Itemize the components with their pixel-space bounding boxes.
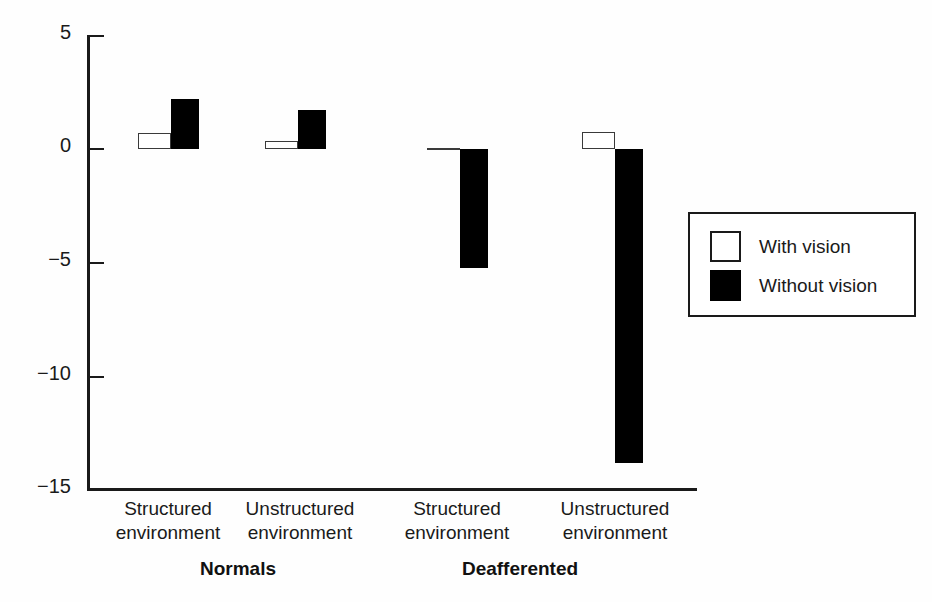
- x-axis-line: [87, 488, 697, 491]
- group-label-normals: Normals: [158, 558, 318, 580]
- x-category-label-line1: Structured: [387, 497, 527, 521]
- y-tick-minus10: −10: [87, 376, 104, 378]
- bar-with-vision-deafferented-structured: [427, 148, 460, 150]
- y-tick-0: 0: [87, 148, 104, 150]
- y-tick-label: 5: [60, 22, 71, 42]
- plot-area: 5 0 −5 −10 −15: [87, 35, 697, 490]
- bar-with-vision-normals-structured: [138, 133, 171, 149]
- x-category-label-0: Structured environment: [98, 497, 238, 545]
- y-tick-minus15: −15: [87, 489, 104, 491]
- group-label-deafferented: Deafferented: [425, 558, 615, 580]
- bar-with-vision-normals-unstructured: [265, 141, 298, 149]
- x-category-label-2: Structured environment: [387, 497, 527, 545]
- x-category-label-3: Unstructured environment: [542, 497, 688, 545]
- legend-swatch-dark: [710, 270, 741, 301]
- legend-label-without-vision: Without vision: [759, 275, 877, 297]
- x-category-label-line2: environment: [387, 521, 527, 545]
- x-category-label-line2: environment: [227, 521, 373, 545]
- bar-without-vision-normals-structured: [171, 99, 199, 149]
- y-tick-mark: [90, 376, 104, 378]
- x-category-label-line2: environment: [98, 521, 238, 545]
- y-tick-5: 5: [87, 35, 104, 37]
- y-tick-label: −5: [48, 249, 71, 269]
- bar-chart-figure: 5 0 −5 −10 −15: [0, 0, 932, 602]
- legend-entry-without-vision: Without vision: [710, 270, 877, 301]
- x-category-label-1: Unstructured environment: [227, 497, 373, 545]
- y-tick-minus5: −5: [87, 262, 104, 264]
- legend-label-with-vision: With vision: [759, 236, 851, 258]
- legend-swatch-light: [710, 231, 741, 262]
- bar-with-vision-deafferented-unstructured: [582, 132, 615, 149]
- y-tick-label: 0: [60, 135, 71, 155]
- x-category-label-line2: environment: [542, 521, 688, 545]
- y-tick-mark: [90, 35, 104, 37]
- legend-entry-with-vision: With vision: [710, 231, 851, 262]
- bar-without-vision-deafferented-unstructured: [615, 149, 643, 463]
- y-tick-mark: [90, 262, 104, 264]
- y-tick-label: −15: [37, 476, 71, 496]
- x-category-label-line1: Structured: [98, 497, 238, 521]
- y-tick-label: −10: [37, 363, 71, 383]
- bar-without-vision-deafferented-structured: [460, 149, 488, 268]
- bar-without-vision-normals-unstructured: [298, 110, 326, 149]
- legend: With vision Without vision: [688, 212, 916, 317]
- x-category-label-line1: Unstructured: [542, 497, 688, 521]
- y-tick-mark: [90, 489, 104, 491]
- x-category-label-line1: Unstructured: [227, 497, 373, 521]
- y-tick-mark: [90, 148, 104, 150]
